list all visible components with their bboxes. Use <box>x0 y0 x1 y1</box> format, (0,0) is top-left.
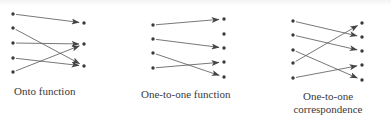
mapping-arrow <box>16 14 79 22</box>
label-line: One-to-one function <box>141 88 231 100</box>
domain-point <box>11 26 14 29</box>
domain-point <box>11 12 14 15</box>
label-line: correspondence <box>278 103 378 116</box>
domain-point <box>11 56 14 59</box>
domain-point <box>151 23 154 26</box>
domain-point <box>291 48 294 51</box>
domain-point <box>151 51 154 54</box>
mapping-arrow <box>156 62 219 67</box>
mapping-arrow <box>296 36 357 50</box>
codomain-point <box>222 60 225 63</box>
codomain-point <box>360 21 363 24</box>
mapping-arrow <box>156 39 219 47</box>
codomain-point <box>82 64 85 67</box>
mapping-arrow <box>296 26 358 62</box>
domain-point <box>291 33 294 36</box>
mapping-arrow <box>296 66 357 78</box>
figure-canvas: Onto function One-to-one function One-to… <box>0 0 391 117</box>
domain-point <box>11 70 14 73</box>
mapping-arrow <box>296 22 357 36</box>
codomain-point <box>222 46 225 49</box>
codomain-point <box>222 75 225 78</box>
domain-point <box>291 76 294 79</box>
one-to-one-function-diagram <box>151 17 225 78</box>
codomain-point <box>222 32 225 35</box>
mapping-arrow <box>296 51 358 78</box>
mapping-arrow <box>16 43 79 44</box>
codomain-point <box>82 42 85 45</box>
codomain-point <box>360 63 363 66</box>
domain-point <box>291 61 294 64</box>
domain-point <box>11 41 14 44</box>
onto-function-label: Onto function <box>14 85 75 97</box>
domain-point <box>291 19 294 22</box>
codomain-point <box>222 17 225 20</box>
mapping-arrow <box>16 58 79 65</box>
onto-function-diagram <box>11 12 85 73</box>
codomain-point <box>360 78 363 81</box>
mapping-arrow <box>156 19 219 24</box>
label-line: One-to-one <box>278 90 378 103</box>
one-to-one-correspondence-label: One-to-one correspondence <box>278 90 378 116</box>
label-line: Onto function <box>14 85 75 97</box>
codomain-point <box>360 49 363 52</box>
codomain-point <box>82 21 85 24</box>
domain-point <box>151 66 154 69</box>
one-to-one-function-label: One-to-one function <box>141 88 231 100</box>
domain-point <box>151 37 154 40</box>
codomain-point <box>360 35 363 38</box>
one-to-one-correspondence-diagram <box>291 19 363 81</box>
